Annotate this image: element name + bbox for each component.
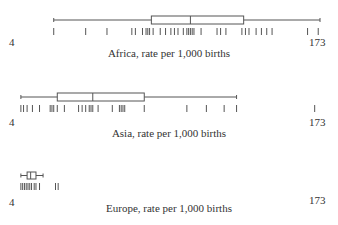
asia-boxplot (0, 80, 338, 150)
iqr-box (57, 93, 144, 101)
africa-caption: Africa, rate per 1,000 births (0, 47, 338, 59)
europe-boxplot (0, 160, 338, 225)
europe-caption: Europe, rate per 1,000 births (0, 202, 338, 214)
africa-panel: 4 173 Africa, rate per 1,000 births (0, 0, 338, 70)
iqr-box (27, 172, 36, 179)
asia-caption: Asia, rate per 1,000 births (0, 127, 338, 139)
iqr-box (151, 16, 243, 24)
africa-boxplot (0, 0, 338, 70)
asia-panel: 4 173 Asia, rate per 1,000 births (0, 80, 338, 150)
europe-panel: 4 173 Europe, rate per 1,000 births (0, 160, 338, 225)
